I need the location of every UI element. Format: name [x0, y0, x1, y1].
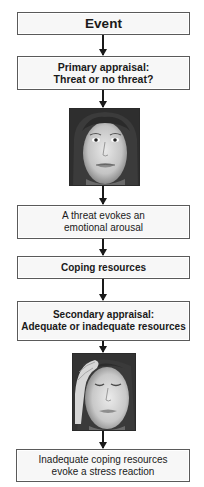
- coping-resources-label: Coping resources: [61, 262, 146, 274]
- face-stressed-illustration: [73, 354, 136, 431]
- emotional-arousal-box: A threat evokes an emotional arousal: [17, 205, 190, 239]
- stress-reaction-line-1: Inadequate coping resources: [39, 454, 168, 466]
- arrow-3: [102, 186, 104, 204]
- stress-reaction-line-2: evoke a stress reaction: [39, 466, 168, 478]
- primary-appraisal-line-2: Threat or no threat?: [54, 73, 154, 85]
- secondary-appraisal-line-1: Secondary appraisal:: [21, 309, 186, 321]
- primary-appraisal-box: Primary appraisal: Threat or no threat?: [17, 56, 190, 90]
- stress-reaction-box: Inadequate coping resources evoke a stre…: [16, 449, 190, 482]
- arrow-4: [102, 239, 104, 255]
- event-box: Event: [17, 12, 190, 35]
- arrow-6: [102, 341, 104, 352]
- emotional-arousal-line-1: A threat evokes an: [62, 210, 145, 222]
- face-neutral-icon: [69, 108, 140, 186]
- face-stressed-icon: [72, 353, 136, 431]
- face-neutral-illustration: [70, 109, 140, 186]
- emotional-arousal-line-2: emotional arousal: [62, 222, 145, 234]
- primary-appraisal-line-1: Primary appraisal:: [54, 61, 154, 73]
- arrow-5: [102, 279, 104, 300]
- arrow-2: [102, 90, 104, 107]
- secondary-appraisal-box: Secondary appraisal: Adequate or inadequ…: [17, 301, 190, 341]
- arrow-1: [102, 35, 104, 55]
- secondary-appraisal-line-2: Adequate or inadequate resources: [21, 321, 186, 333]
- coping-resources-box: Coping resources: [17, 256, 190, 279]
- arrow-7: [102, 431, 104, 448]
- event-label: Event: [85, 18, 122, 30]
